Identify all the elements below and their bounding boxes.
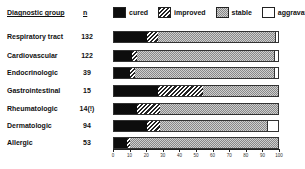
tick-label: 90 bbox=[260, 153, 265, 158]
stacked-bar bbox=[113, 137, 279, 149]
stable-swatch-icon bbox=[216, 7, 229, 18]
bar-segment-improved bbox=[158, 86, 202, 96]
row-label: Gastrointestinal bbox=[7, 87, 60, 94]
legend-item-aggravated: aggravated bbox=[262, 7, 305, 18]
bar-segment-aggravated bbox=[275, 32, 278, 42]
row-n: 14(!) bbox=[72, 105, 102, 112]
improved-swatch-icon bbox=[158, 7, 171, 18]
row-n: 122 bbox=[72, 52, 102, 59]
stacked-bar bbox=[113, 50, 279, 62]
row-label: Cardiovascular bbox=[7, 52, 58, 59]
table-row: Gastrointestinal15 bbox=[0, 85, 305, 99]
cured-swatch-icon bbox=[113, 7, 126, 18]
legend-item-stable: stable bbox=[216, 7, 252, 18]
row-n: 132 bbox=[72, 33, 102, 40]
legend-label-stable: stable bbox=[232, 9, 252, 16]
bar-segment-improved bbox=[147, 32, 158, 42]
tick-label: 20 bbox=[144, 153, 149, 158]
tick-label: 0 bbox=[112, 153, 115, 158]
tick-mark bbox=[113, 149, 114, 152]
legend-label-aggravated: aggravated bbox=[278, 9, 305, 16]
tick-label: 10 bbox=[127, 153, 132, 158]
row-n: 15 bbox=[72, 87, 102, 94]
table-row: Cardiovascular122 bbox=[0, 50, 305, 64]
tick-mark bbox=[262, 149, 263, 152]
column-header-n: n bbox=[83, 9, 87, 16]
bar-segment-stable bbox=[135, 68, 274, 78]
bar-segment-stable bbox=[158, 32, 275, 42]
row-label: Allergic bbox=[7, 139, 33, 146]
tick-mark bbox=[179, 149, 180, 152]
bar-segment-cured bbox=[114, 104, 137, 114]
stacked-bar bbox=[113, 31, 279, 43]
stacked-bar bbox=[113, 120, 279, 132]
table-row: Dermatologic94 bbox=[0, 120, 305, 134]
tick-mark bbox=[246, 149, 247, 152]
tick-label: 80 bbox=[243, 153, 248, 158]
tick-mark bbox=[163, 149, 164, 152]
legend-item-improved: improved bbox=[158, 7, 206, 18]
table-row: Rheumatologic14(!) bbox=[0, 103, 305, 117]
legend-label-cured: cured bbox=[129, 9, 148, 16]
column-header-group: Diagnostic group bbox=[7, 9, 65, 16]
bar-segment-aggravated bbox=[274, 68, 278, 78]
bar-segment-cured bbox=[114, 32, 147, 42]
legend-label-improved: improved bbox=[174, 9, 206, 16]
bar-segment-stable bbox=[203, 86, 278, 96]
tick-label: 70 bbox=[227, 153, 232, 158]
bar-segment-improved bbox=[137, 104, 160, 114]
tick-label: 100 bbox=[275, 153, 283, 158]
bar-segment-stable bbox=[137, 51, 274, 61]
tick-label: 60 bbox=[210, 153, 215, 158]
stacked-bar bbox=[113, 103, 279, 115]
row-label: Rheumatologic bbox=[7, 105, 58, 112]
bar-segment-cured bbox=[114, 138, 127, 148]
tick-label: 30 bbox=[160, 153, 165, 158]
bar-segment-stable bbox=[160, 121, 268, 131]
bar-segment-stable bbox=[130, 138, 278, 148]
stacked-bar bbox=[113, 85, 279, 97]
bar-segment-improved bbox=[147, 121, 160, 131]
bar-segment-stable bbox=[160, 104, 278, 114]
bar-segment-aggravated bbox=[267, 121, 278, 131]
row-n: 39 bbox=[72, 69, 102, 76]
aggravated-swatch-icon bbox=[262, 7, 275, 18]
bar-segment-cured bbox=[114, 68, 130, 78]
bar-segment-aggravated bbox=[274, 51, 278, 61]
bar-segment-cured bbox=[114, 86, 158, 96]
row-label: Dermatologic bbox=[7, 122, 52, 129]
tick-mark bbox=[130, 149, 131, 152]
stacked-bar bbox=[113, 67, 279, 79]
chart-legend: cured improved stable aggravated bbox=[113, 7, 305, 18]
table-row: Endocrinologic39 bbox=[0, 67, 305, 81]
row-n: 53 bbox=[72, 139, 102, 146]
tick-label: 50 bbox=[193, 153, 198, 158]
row-label: Respiratory tract bbox=[7, 33, 63, 40]
tick-mark bbox=[213, 149, 214, 152]
bar-segment-cured bbox=[114, 51, 132, 61]
bar-segment-cured bbox=[114, 121, 147, 131]
legend-item-cured: cured bbox=[113, 7, 148, 18]
row-label: Endocrinologic bbox=[7, 69, 58, 76]
tick-mark bbox=[229, 149, 230, 152]
row-n: 94 bbox=[72, 122, 102, 129]
tick-label: 40 bbox=[177, 153, 182, 158]
tick-mark bbox=[279, 149, 280, 152]
tick-mark bbox=[196, 149, 197, 152]
tick-mark bbox=[146, 149, 147, 152]
table-row: Respiratory tract132 bbox=[0, 31, 305, 45]
